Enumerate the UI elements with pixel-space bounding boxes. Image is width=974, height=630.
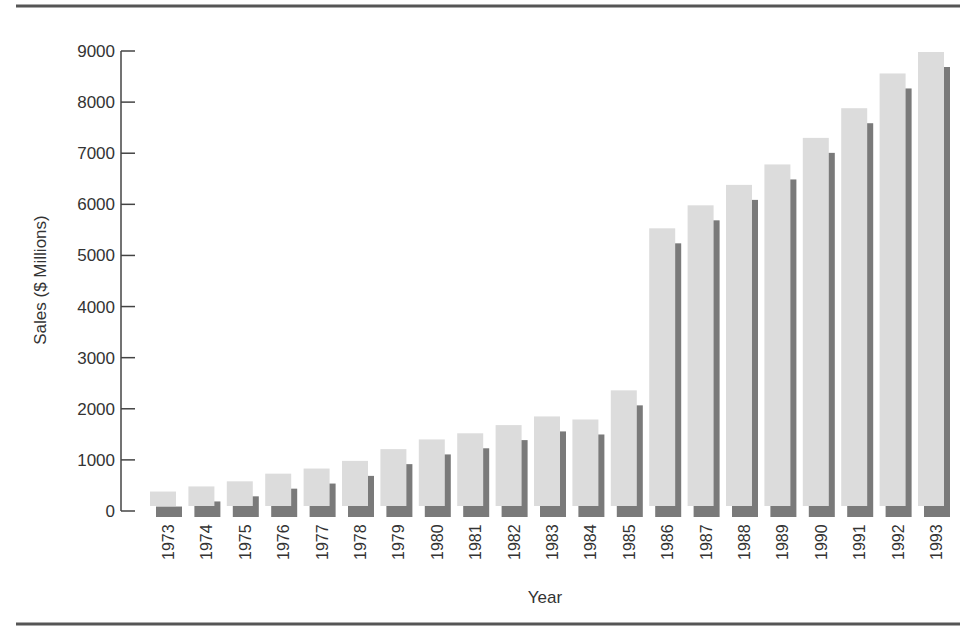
y-tick-label: 2000 — [77, 400, 115, 419]
y-axis-label: Sales ($ Millions) — [31, 215, 50, 344]
bar-1973 — [150, 492, 182, 517]
bar-1975 — [227, 481, 259, 517]
bar-face — [649, 228, 675, 506]
x-tick-label: 1980 — [429, 524, 446, 560]
bar-face — [457, 433, 483, 506]
y-tick-label: 4000 — [77, 298, 115, 317]
bar-face — [572, 419, 598, 506]
x-tick-label: 1989 — [774, 524, 791, 560]
bar-face — [880, 73, 906, 506]
sales-bar-chart: 0100020003000400050006000700080009000 19… — [0, 0, 974, 630]
x-axis-label: Year — [528, 588, 563, 607]
y-tick-label: 9000 — [77, 42, 115, 61]
bar-1987 — [688, 205, 720, 517]
bar-face — [688, 205, 714, 506]
x-tick-label: 1986 — [659, 524, 676, 560]
bar-1985 — [611, 390, 643, 517]
x-tick-label: 1985 — [621, 524, 638, 560]
bar-shadow — [156, 507, 182, 517]
bar-face — [150, 492, 176, 506]
bar-face — [380, 449, 406, 506]
bar-1984 — [572, 419, 604, 517]
bar-face — [265, 474, 291, 506]
bar-1993 — [918, 52, 950, 517]
x-tick-label: 1993 — [928, 524, 945, 560]
bar-1992 — [880, 73, 912, 517]
bar-1988 — [726, 185, 758, 517]
bar-face — [918, 52, 944, 506]
x-tick-label: 1987 — [698, 524, 715, 560]
bar-1979 — [380, 449, 412, 517]
bar-1990 — [803, 138, 835, 517]
bar-face — [841, 108, 867, 506]
bar-1980 — [419, 439, 451, 517]
y-tick-label: 6000 — [77, 195, 115, 214]
bar-face — [496, 425, 522, 506]
y-tick-label: 1000 — [77, 451, 115, 470]
bar-face — [342, 461, 368, 506]
bar-face — [188, 486, 214, 506]
bar-1981 — [457, 433, 489, 517]
bar-1976 — [265, 474, 297, 517]
x-tick-label: 1991 — [851, 524, 868, 560]
x-tick-label: 1982 — [506, 524, 523, 560]
x-tick-label: 1990 — [813, 524, 830, 560]
x-tick-label: 1976 — [275, 524, 292, 560]
bar-1991 — [841, 108, 873, 517]
bar-1986 — [649, 228, 681, 517]
bar-face — [419, 439, 445, 506]
x-tick-label: 1974 — [198, 524, 215, 560]
y-tick-label: 0 — [106, 502, 115, 521]
bar-face — [764, 164, 790, 506]
x-axis: 1973197419751976197719781979198019811982… — [160, 524, 945, 560]
bar-face — [304, 469, 330, 506]
bar-face — [726, 185, 752, 506]
x-tick-label: 1975 — [237, 524, 254, 560]
x-tick-label: 1984 — [582, 524, 599, 560]
x-tick-label: 1988 — [736, 524, 753, 560]
bars — [150, 52, 950, 517]
x-tick-label: 1977 — [314, 524, 331, 560]
bar-1977 — [304, 469, 336, 517]
x-tick-label: 1992 — [890, 524, 907, 560]
bar-face — [803, 138, 829, 506]
bar-1974 — [188, 486, 220, 517]
x-tick-label: 1979 — [390, 524, 407, 560]
bar-face — [227, 481, 253, 506]
x-tick-label: 1978 — [352, 524, 369, 560]
y-tick-label: 8000 — [77, 93, 115, 112]
x-tick-label: 1973 — [160, 524, 177, 560]
bar-1983 — [534, 416, 566, 517]
bar-1982 — [496, 425, 528, 517]
bar-face — [611, 390, 637, 506]
x-tick-label: 1983 — [544, 524, 561, 560]
bar-face — [534, 416, 560, 506]
y-axis: 0100020003000400050006000700080009000 — [77, 42, 135, 521]
x-tick-label: 1981 — [467, 524, 484, 560]
y-tick-label: 5000 — [77, 246, 115, 265]
y-tick-label: 7000 — [77, 144, 115, 163]
y-tick-label: 3000 — [77, 349, 115, 368]
bar-1978 — [342, 461, 374, 517]
bar-1989 — [764, 164, 796, 517]
